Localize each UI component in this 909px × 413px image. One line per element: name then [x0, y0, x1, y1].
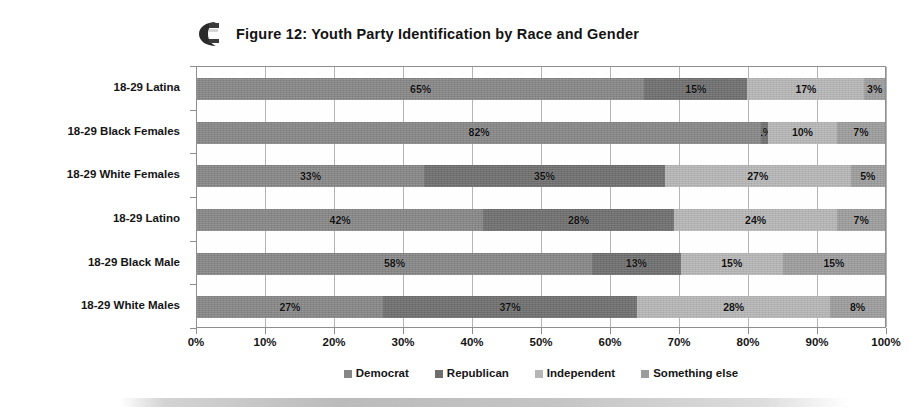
x-axis-label: 70%	[667, 337, 690, 349]
bar-segment-label: 15%	[823, 258, 844, 269]
bar-segment-label: 35%	[534, 171, 555, 182]
x-axis-labels: 0%10%20%30%40%50%60%70%80%90%100%	[196, 337, 886, 353]
y-axis-labels: 18-29 Latina18-29 Black Females18-29 Whi…	[0, 66, 188, 328]
legend-swatch-icon	[641, 370, 649, 378]
x-axis-label: 0%	[188, 337, 205, 349]
bar-segment[interactable]: 7%	[837, 122, 885, 144]
bar-segment-label: 17%	[795, 84, 816, 95]
gridline	[886, 67, 887, 327]
bar-segment[interactable]: 35%	[424, 165, 665, 187]
legend-swatch-icon	[344, 370, 352, 378]
legend-label: Independent	[547, 368, 615, 380]
bar-segment-label: 15%	[685, 84, 706, 95]
x-axis-tick	[403, 328, 404, 334]
bar-segment[interactable]: 1%	[761, 122, 768, 144]
x-axis-tick	[334, 328, 335, 334]
x-axis-tick	[196, 328, 197, 334]
bar-segment-label: 13%	[626, 258, 647, 269]
bar-segment-label: 3%	[867, 84, 882, 95]
legend-item[interactable]: Independent	[535, 368, 615, 380]
legend-swatch-icon	[535, 370, 543, 378]
bar-segment[interactable]: 13%	[592, 253, 681, 275]
bar-segment-label: 10%	[792, 127, 813, 138]
bar-row[interactable]: 82%1%10%7%	[197, 122, 885, 144]
bar-segment[interactable]: 82%	[197, 122, 761, 144]
bar-segment-label: 28%	[723, 302, 744, 313]
legend-item[interactable]: Republican	[435, 368, 509, 380]
x-axis-tick	[265, 328, 266, 334]
bar-segment[interactable]: 58%	[197, 253, 592, 275]
bar-row[interactable]: 58%13%15%15%	[197, 253, 885, 275]
x-axis-label: 90%	[805, 337, 828, 349]
bar-row[interactable]: 42%28%24%7%	[197, 209, 885, 231]
bar-segment[interactable]: 27%	[197, 296, 383, 318]
x-axis-tick	[748, 328, 749, 334]
bar-segment[interactable]: 17%	[747, 78, 864, 100]
x-axis-label: 30%	[391, 337, 414, 349]
x-axis-label: 50%	[529, 337, 552, 349]
bar-segment-label: 65%	[410, 84, 431, 95]
y-axis-label: 18-29 White Males	[81, 300, 180, 312]
bar-row[interactable]: 27%37%28%8%	[197, 296, 885, 318]
x-axis-tick	[472, 328, 473, 334]
plot-area: 65%15%17%3%82%1%10%7%33%35%27%5%42%28%24…	[196, 66, 886, 328]
bar-segment[interactable]: 10%	[768, 122, 837, 144]
bar-segment-label: 42%	[330, 215, 351, 226]
bar-segment-label: 5%	[860, 171, 875, 182]
x-axis-tick	[886, 328, 887, 334]
x-axis-label: 10%	[253, 337, 276, 349]
x-axis-label: 100%	[871, 337, 900, 349]
figure-container: Figure 12: Youth Party Identification by…	[0, 0, 909, 413]
legend-item[interactable]: Democrat	[344, 368, 409, 380]
legend-label: Democrat	[356, 368, 409, 380]
bar-segment-label: 58%	[384, 258, 405, 269]
y-axis-label: 18-29 Black Male	[88, 257, 180, 269]
bar-segment[interactable]: 15%	[783, 253, 885, 275]
bar-row[interactable]: 65%15%17%3%	[197, 78, 885, 100]
bar-row[interactable]: 33%35%27%5%	[197, 165, 885, 187]
bar-segment[interactable]: 65%	[197, 78, 644, 100]
bar-segment[interactable]: 8%	[830, 296, 885, 318]
bar-segment-label: 24%	[745, 215, 766, 226]
x-axis-tick	[817, 328, 818, 334]
chart-legend: DemocratRepublicanIndependentSomething e…	[196, 368, 886, 380]
legend-swatch-icon	[435, 370, 443, 378]
bar-segment[interactable]: 42%	[197, 209, 483, 231]
bar-segment[interactable]: 7%	[837, 209, 885, 231]
bar-segment[interactable]: 37%	[383, 296, 638, 318]
bar-segment-label: 8%	[850, 302, 865, 313]
bar-segment[interactable]: 3%	[864, 78, 885, 100]
bar-segment-label: 82%	[469, 127, 490, 138]
page-title: Figure 12: Youth Party Identification by…	[236, 26, 639, 42]
x-axis-label: 60%	[598, 337, 621, 349]
bar-segment[interactable]: 15%	[681, 253, 783, 275]
bar-segment-label: 33%	[300, 171, 321, 182]
x-axis-ticks	[196, 328, 886, 335]
figure-title-row: Figure 12: Youth Party Identification by…	[196, 16, 639, 52]
bar-segment-label: 7%	[854, 215, 869, 226]
y-axis-label: 18-29 Latino	[113, 213, 180, 225]
bar-segment[interactable]: 28%	[483, 209, 674, 231]
bar-segment-label: 37%	[500, 302, 521, 313]
bar-segment-label: 27%	[279, 302, 300, 313]
bar-segment[interactable]: 27%	[665, 165, 851, 187]
bar-segment[interactable]: 24%	[674, 209, 837, 231]
dark-swirl-logo-icon	[196, 19, 222, 49]
bar-rows: 65%15%17%3%82%1%10%7%33%35%27%5%42%28%24…	[197, 67, 885, 327]
y-axis-label: 18-29 Black Females	[67, 126, 180, 138]
x-axis-tick	[679, 328, 680, 334]
bar-segment[interactable]: 5%	[851, 165, 885, 187]
bar-segment-label: 28%	[568, 215, 589, 226]
bar-segment[interactable]: 33%	[197, 165, 424, 187]
x-axis-tick	[541, 328, 542, 334]
y-axis-label: 18-29 Latina	[114, 82, 180, 94]
legend-item[interactable]: Something else	[641, 368, 738, 380]
x-axis-label: 80%	[736, 337, 759, 349]
y-axis-label: 18-29 White Females	[67, 169, 180, 181]
bar-segment-label: 1%	[761, 127, 768, 138]
bar-segment[interactable]: 15%	[644, 78, 747, 100]
bar-segment-label: 7%	[853, 127, 868, 138]
bar-segment[interactable]: 28%	[637, 296, 830, 318]
x-axis-label: 20%	[322, 337, 345, 349]
scan-artifact	[120, 398, 849, 407]
